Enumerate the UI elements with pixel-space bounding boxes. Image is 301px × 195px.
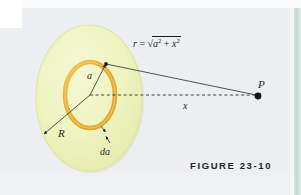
radicand: a2 + x2 (152, 36, 181, 49)
label-radius-R: R (58, 127, 65, 139)
charged-disk (36, 25, 142, 171)
point-P-marker (255, 93, 262, 100)
label-r-formula: r = √a2 + x2 (133, 36, 181, 49)
radicand-x-exponent: 2 (176, 37, 179, 44)
label-r-symbol: r (133, 38, 137, 49)
label-distance-x: x (183, 100, 187, 111)
label-r-equals: = (139, 38, 145, 49)
label-point-P: P (258, 78, 265, 90)
label-radius-a: a (87, 70, 92, 81)
radicand-plus: + (164, 38, 170, 49)
figure-caption: FIGURE 23-10 (190, 160, 272, 171)
radicand-a-exponent: 2 (158, 37, 161, 44)
figure-panel: r = √a2 + x2 P x a R da FIGURE 23-10 (0, 0, 301, 195)
ring-element-marker (104, 62, 108, 66)
label-ring-width-da: da (100, 146, 110, 157)
